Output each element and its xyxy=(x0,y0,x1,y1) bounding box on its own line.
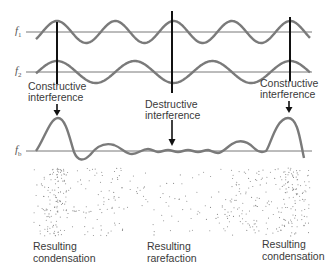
arrow-down-icon-middle xyxy=(169,120,176,146)
interference-diagram xyxy=(0,0,335,273)
fb-label: fb xyxy=(15,143,22,158)
beat-wave xyxy=(36,118,304,160)
arrow-down-icon-left xyxy=(54,104,61,116)
constructive-label-right: Constructiveinterference xyxy=(260,78,318,100)
f1-label: f1 xyxy=(15,24,22,39)
f2-label: f2 xyxy=(15,64,22,79)
destructive-label: Destructiveinterference xyxy=(145,99,200,121)
particle-density-field xyxy=(33,168,310,237)
result-label-right: Resultingcondensation xyxy=(262,238,324,262)
result-label-middle: Resultingrarefaction xyxy=(147,240,197,264)
arrow-down-icon-right xyxy=(286,101,293,113)
constructive-label-left: Constructiveinterference xyxy=(28,81,86,103)
result-label-left: Resultingcondensation xyxy=(33,240,95,264)
